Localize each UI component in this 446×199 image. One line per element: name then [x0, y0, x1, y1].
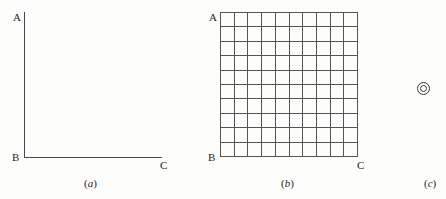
grid-line-horizontal [220, 98, 358, 99]
grid-line-horizontal [220, 127, 358, 128]
figure-root: A B C (a) A B C (b) (c) [0, 0, 446, 199]
grid-line-horizontal [220, 84, 358, 85]
grid-line-horizontal [220, 55, 358, 56]
panel-a-vertex-label-a: A [13, 12, 21, 23]
double-circle-inner-ring [420, 85, 427, 92]
panel-b-vertex-label-b: B [208, 152, 215, 163]
panel-a-vertical-axis-line [24, 12, 25, 158]
panel-b-vertex-label-a: A [209, 12, 217, 23]
grid-line-horizontal [220, 12, 358, 13]
panel-a-vertex-label-b: B [12, 152, 19, 163]
panel-b-vertex-label-c: C [357, 160, 364, 171]
panel-a-caption: (a) [84, 178, 97, 189]
grid-line-horizontal [220, 113, 358, 114]
double-circle-icon [417, 82, 430, 95]
panel-a-vertex-label-c: C [160, 160, 167, 171]
panel-c-caption: (c) [424, 178, 436, 189]
grid-line-horizontal [220, 26, 358, 27]
grid-line-horizontal [220, 70, 358, 71]
panel-b-caption: (b) [281, 178, 294, 189]
grid-line-horizontal [220, 142, 358, 143]
grid-line-horizontal [220, 41, 358, 42]
panel-a-horizontal-axis-line [24, 157, 162, 158]
grid-line-horizontal [220, 156, 358, 157]
panel-b-grid [220, 12, 358, 157]
